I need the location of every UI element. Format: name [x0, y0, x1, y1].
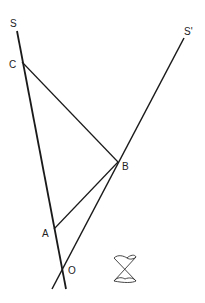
- line-s-prime: [52, 38, 184, 289]
- label-a: A: [42, 228, 49, 239]
- label-c: C: [9, 59, 16, 70]
- label-b: B: [122, 161, 129, 172]
- line-s: [17, 31, 66, 289]
- label-s-prime: S': [184, 26, 193, 37]
- segment-cb: [22, 62, 118, 162]
- segment-ab: [54, 162, 118, 229]
- disjoint-union-icon: [114, 255, 136, 282]
- label-s: S: [10, 18, 17, 29]
- label-o: O: [68, 265, 76, 276]
- geometry-diagram: S S' C B A O: [0, 0, 205, 303]
